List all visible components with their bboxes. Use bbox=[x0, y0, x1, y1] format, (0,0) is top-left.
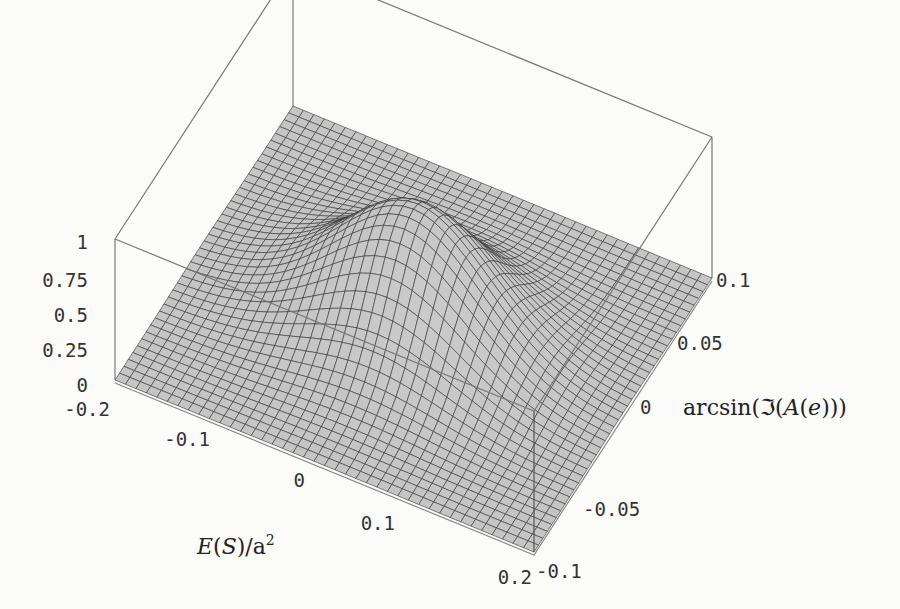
z-tick-label: 1 bbox=[77, 231, 88, 253]
z-tick-label: 0.5 bbox=[54, 304, 88, 326]
z-tick-label: 0.25 bbox=[42, 339, 88, 361]
y-tick-label: 0.05 bbox=[677, 332, 723, 354]
y-axis-label: arcsin(ℑ(A(e))) bbox=[683, 395, 847, 420]
x-axis-label: E(S)/a2 bbox=[196, 532, 275, 559]
x-tick-label: -0.2 bbox=[64, 398, 110, 420]
x-tick-label: 0 bbox=[294, 469, 305, 491]
surface-mesh bbox=[115, 106, 712, 552]
x-tick-label: -0.1 bbox=[164, 428, 210, 450]
y-tick-label: -0.05 bbox=[583, 498, 640, 520]
x-tick-label: 0.1 bbox=[361, 512, 395, 534]
z-tick-label: 0 bbox=[77, 374, 88, 396]
y-tick-label: 0.1 bbox=[716, 269, 750, 291]
z-tick-label: 0.75 bbox=[42, 269, 88, 291]
y-tick-label: 0 bbox=[640, 396, 651, 418]
x-tick-label: 0.2 bbox=[498, 566, 532, 588]
z-axis-ticks: 00.250.50.751 bbox=[42, 231, 88, 396]
surface-plot: 00.250.50.751 -0.2-0.100.10.2 -0.1-0.050… bbox=[0, 0, 900, 609]
y-tick-label: -0.1 bbox=[536, 560, 582, 582]
